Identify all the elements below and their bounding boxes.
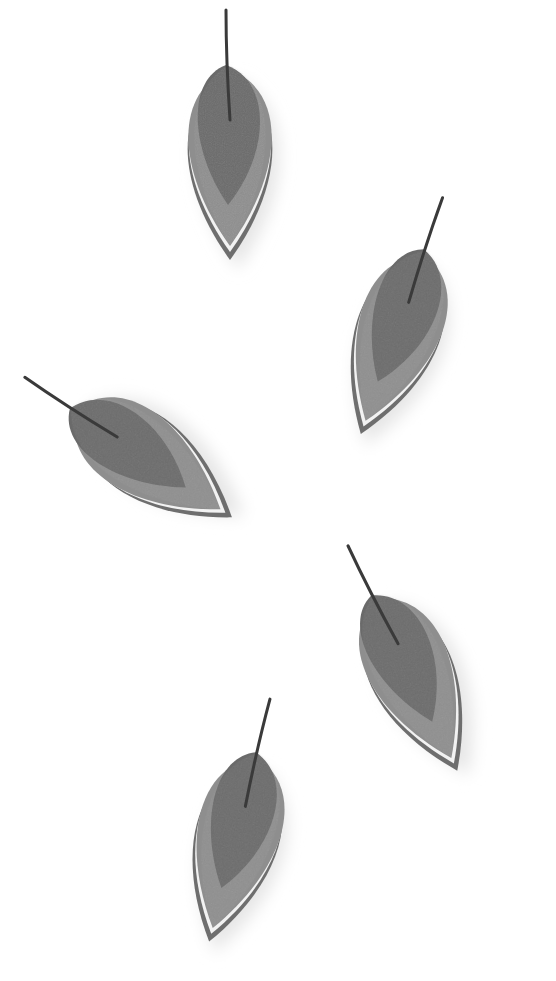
leaf-sculpture-4 <box>313 523 506 796</box>
photo-stage <box>0 0 556 981</box>
leaf-sculpture-5 <box>166 689 322 963</box>
leaf-sculpture-3 <box>3 334 268 558</box>
leaf-sculpture-2 <box>318 185 493 460</box>
leaf-sculptures-illustration <box>0 0 556 981</box>
leaf-sculpture-1 <box>188 10 280 269</box>
